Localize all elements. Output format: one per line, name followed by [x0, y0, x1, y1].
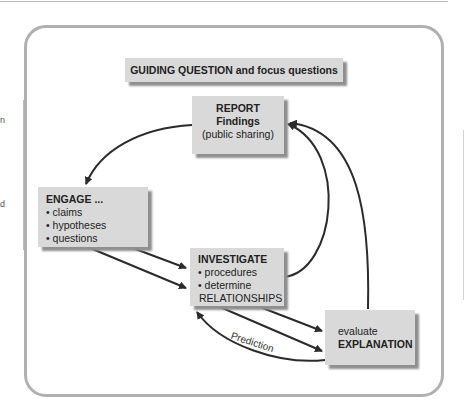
engage-title: ENGAGE ... — [46, 193, 148, 206]
report-note: (public sharing) — [192, 128, 284, 141]
investigate-box: INVESTIGATE • procedures • determine REL… — [190, 248, 284, 306]
investigate-bullet-continuation: RELATIONSHIPS — [198, 292, 284, 305]
engage-box: ENGAGE ... • claims • hypotheses • quest… — [38, 187, 148, 247]
investigate-bullet: • procedures — [198, 266, 284, 279]
arrow-engage-to-investigate-1 — [130, 247, 186, 268]
engage-bullet: • hypotheses — [46, 219, 148, 232]
investigate-bullet: • determine — [198, 279, 284, 292]
report-subtitle: Findings — [192, 115, 284, 128]
arrow-report-to-engage — [86, 125, 192, 184]
evaluate-box: evaluate EXPLANATION — [325, 310, 415, 365]
arrow-prediction — [197, 312, 325, 361]
arrow-investigate-to-report — [284, 124, 329, 277]
guiding-question-box: GUIDING QUESTION and focus questions — [125, 58, 343, 82]
report-box: REPORT Findings (public sharing) — [192, 96, 284, 154]
report-title: REPORT — [192, 102, 284, 115]
evaluate-title: EXPLANATION — [338, 338, 415, 351]
evaluate-verb: evaluate — [338, 325, 415, 338]
arrow-evaluate-to-report — [290, 123, 368, 309]
investigate-title: INVESTIGATE — [198, 253, 284, 266]
engage-bullet: • questions — [46, 232, 148, 245]
arrow-engage-to-investigate-2 — [90, 248, 186, 288]
engage-bullet: • claims — [46, 206, 148, 219]
